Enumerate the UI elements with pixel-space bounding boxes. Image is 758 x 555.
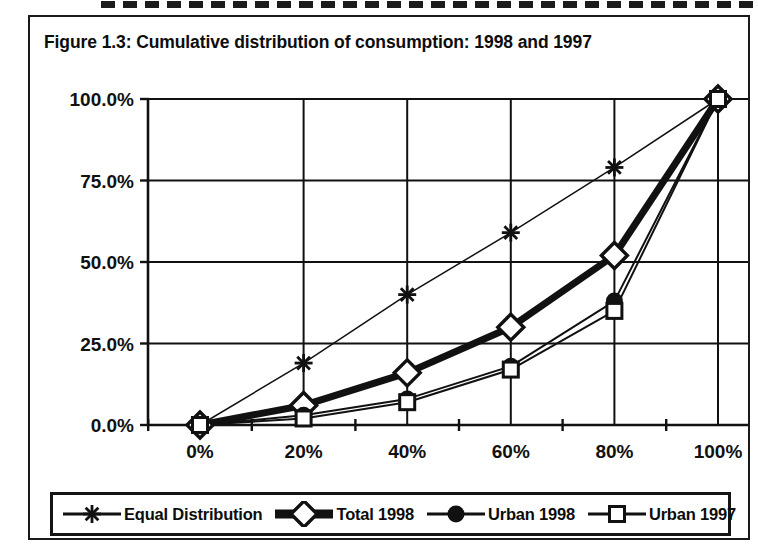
marker-open-diamond-icon <box>394 360 420 386</box>
legend-key-marker <box>609 507 624 522</box>
y-axis-tick-label: 100.0% <box>70 89 135 110</box>
x-axis-tick-labels: 0%20%40%60%80%100% <box>186 441 742 462</box>
filled-circle-icon <box>425 501 487 527</box>
open-diamond-icon <box>273 501 335 527</box>
legend-item-label: Urban 1997 <box>649 505 736 524</box>
x-axis-tick-label: 60% <box>492 441 530 462</box>
marker-open-square-icon <box>609 507 624 522</box>
marker-open-diamond-icon <box>291 501 317 527</box>
x-axis-tick-label: 0% <box>186 441 214 462</box>
marker-filled-circle-icon <box>448 507 463 522</box>
x-axis-tick-label: 20% <box>285 441 323 462</box>
y-axis-tick-labels: 0.0%25.0%50.0%75.0%100.0% <box>70 89 135 436</box>
marker-open-square-icon <box>193 418 208 433</box>
legend-item-label: Urban 1998 <box>488 505 575 524</box>
x-axis-tick-label: 40% <box>388 441 426 462</box>
chart-legend: Equal DistributionTotal 1998Urban 1998Ur… <box>50 492 731 536</box>
marker-open-square-icon <box>296 411 311 426</box>
y-axis-tick-label: 50.0% <box>80 252 134 273</box>
cumulative-distribution-line-chart: 0.0%25.0%50.0%75.0%100.0% 0%20%40%60%80%… <box>0 0 758 555</box>
marker-open-square-icon <box>711 92 726 107</box>
legend-key-marker <box>291 501 317 527</box>
legend-item-urban-1997[interactable]: Urban 1997 <box>586 495 747 533</box>
y-axis-tick-label: 25.0% <box>80 334 134 355</box>
chart-gridlines <box>148 99 748 425</box>
legend-key-marker <box>448 507 463 522</box>
legend-item-label: Total 1998 <box>336 505 413 524</box>
open-square-icon <box>586 501 648 527</box>
marker-open-square-icon <box>607 303 622 318</box>
legend-item-total-1998[interactable]: Total 1998 <box>273 495 424 533</box>
legend-item-equal-distribution[interactable]: Equal Distribution <box>61 495 273 533</box>
chart-plot-area: 0.0%25.0%50.0%75.0%100.0% 0%20%40%60%80%… <box>0 0 758 555</box>
asterisk-star-icon <box>61 501 123 527</box>
y-axis-tick-label: 75.0% <box>80 171 134 192</box>
x-axis-tick-label: 100% <box>694 441 743 462</box>
legend-item-label: Equal Distribution <box>124 505 262 524</box>
marker-open-square-icon <box>503 362 518 377</box>
legend-item-urban-1998[interactable]: Urban 1998 <box>425 495 586 533</box>
x-axis-tick-label: 80% <box>595 441 633 462</box>
legend-key-marker <box>83 505 101 523</box>
marker-open-square-icon <box>400 395 415 410</box>
y-axis-tick-label: 0.0% <box>91 415 134 436</box>
